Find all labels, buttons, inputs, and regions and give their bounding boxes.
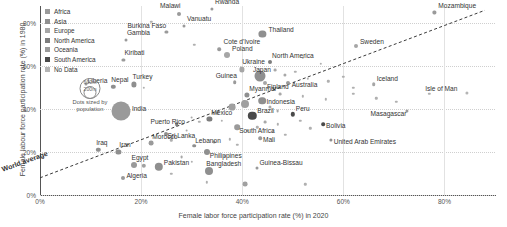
data-point-unlabeled[interactable] bbox=[395, 100, 397, 102]
data-point-label: Ukraine bbox=[242, 59, 265, 66]
legend-item-africa[interactable]: Africa bbox=[45, 8, 96, 15]
data-point[interactable] bbox=[183, 25, 186, 28]
data-point[interactable] bbox=[116, 149, 121, 154]
data-point-unlabeled[interactable] bbox=[284, 73, 287, 76]
data-point[interactable] bbox=[210, 8, 213, 11]
data-point-unlabeled[interactable] bbox=[428, 93, 430, 95]
x-axis-tick-label: 20% bbox=[135, 198, 148, 205]
legend-item-asia[interactable]: Asia bbox=[45, 18, 96, 25]
data-point[interactable] bbox=[207, 116, 212, 121]
data-point[interactable] bbox=[131, 82, 136, 87]
data-point-label: Isle of Man bbox=[425, 86, 457, 93]
data-point-unlabeled[interactable] bbox=[284, 134, 286, 136]
data-point[interactable] bbox=[122, 58, 125, 61]
data-point-label: Kiribati bbox=[124, 50, 144, 57]
legend-swatch bbox=[45, 57, 50, 62]
legend-item-europe[interactable]: Europe bbox=[45, 27, 96, 34]
data-point-unlabeled[interactable] bbox=[299, 120, 301, 122]
data-point-unlabeled[interactable] bbox=[142, 86, 144, 88]
data-point-label: Burkina Faso bbox=[127, 23, 166, 30]
data-point-unlabeled[interactable] bbox=[170, 172, 172, 174]
data-point-unlabeled[interactable] bbox=[279, 93, 282, 96]
data-point-label: Guinea bbox=[216, 73, 237, 80]
data-point-unlabeled[interactable] bbox=[327, 80, 329, 82]
size-legend-caption-line2: population bbox=[61, 106, 119, 113]
legend-label: South America bbox=[54, 56, 96, 63]
legend-item-north-america[interactable]: North America bbox=[45, 37, 96, 44]
data-point[interactable] bbox=[245, 93, 250, 98]
data-point[interactable] bbox=[124, 39, 127, 42]
data-point-label: Masagascar bbox=[371, 111, 407, 118]
data-point[interactable] bbox=[177, 12, 181, 16]
legend-item-oceania[interactable]: Oceania bbox=[45, 46, 96, 53]
size-legend-caption-line1: Dots sized by bbox=[61, 99, 119, 106]
data-point[interactable] bbox=[155, 163, 163, 171]
data-point[interactable] bbox=[224, 52, 230, 58]
data-point-label: Iceland bbox=[377, 76, 398, 83]
x-axis-tick-label: 80% bbox=[438, 198, 451, 205]
legend-item-south-america[interactable]: South America bbox=[45, 56, 96, 63]
data-point-label: Morocco bbox=[152, 134, 177, 141]
data-point[interactable] bbox=[131, 162, 137, 168]
data-point-unlabeled[interactable] bbox=[375, 97, 377, 99]
data-point-unlabeled[interactable] bbox=[304, 183, 306, 185]
data-point[interactable] bbox=[259, 97, 267, 105]
data-point-label: Sweden bbox=[360, 39, 384, 46]
data-point[interactable] bbox=[218, 47, 222, 51]
data-point-unlabeled[interactable] bbox=[264, 121, 267, 124]
data-point[interactable] bbox=[258, 136, 262, 140]
data-point-unlabeled[interactable] bbox=[276, 110, 279, 113]
legend-label: No Data bbox=[54, 66, 77, 73]
data-point-unlabeled[interactable] bbox=[276, 123, 278, 125]
data-point-unlabeled[interactable] bbox=[198, 121, 200, 123]
data-point[interactable] bbox=[433, 11, 436, 14]
legend-item-no-data[interactable]: No Data bbox=[45, 66, 96, 73]
data-point-unlabeled[interactable] bbox=[190, 161, 192, 163]
data-point[interactable] bbox=[291, 112, 295, 116]
legend-label: North America bbox=[54, 37, 95, 44]
data-point-label: Iran bbox=[119, 142, 130, 149]
data-point-unlabeled[interactable] bbox=[352, 93, 354, 95]
data-point[interactable] bbox=[240, 67, 245, 72]
legend-label: Asia bbox=[54, 18, 66, 25]
data-point-unlabeled[interactable] bbox=[324, 98, 326, 100]
data-point-unlabeled[interactable] bbox=[241, 100, 249, 108]
data-point-unlabeled[interactable] bbox=[221, 120, 223, 122]
data-point-unlabeled[interactable] bbox=[206, 181, 208, 183]
data-point-label: Algeria bbox=[126, 173, 147, 180]
data-point-label: Philippines bbox=[210, 153, 242, 160]
data-point[interactable] bbox=[256, 167, 259, 170]
data-point-unlabeled[interactable] bbox=[242, 182, 247, 187]
data-point[interactable] bbox=[233, 80, 237, 84]
data-point[interactable] bbox=[466, 91, 469, 94]
data-point-unlabeled[interactable] bbox=[294, 70, 296, 72]
data-point-unlabeled[interactable] bbox=[302, 95, 304, 97]
data-point[interactable] bbox=[192, 144, 196, 148]
data-point[interactable] bbox=[165, 30, 168, 33]
y-axis-tick-label: 60% bbox=[23, 63, 36, 70]
data-point[interactable] bbox=[372, 83, 376, 87]
data-point-unlabeled[interactable] bbox=[274, 69, 277, 72]
data-point-label: Indonesia bbox=[266, 99, 295, 106]
data-point-unlabeled[interactable] bbox=[307, 78, 309, 80]
data-point-unlabeled[interactable] bbox=[319, 63, 321, 65]
data-point[interactable] bbox=[321, 122, 325, 126]
data-point[interactable] bbox=[329, 139, 332, 142]
data-point[interactable] bbox=[354, 44, 358, 48]
gridline-horizontal bbox=[40, 23, 495, 24]
data-point-unlabeled[interactable] bbox=[352, 86, 354, 88]
data-point-unlabeled[interactable] bbox=[193, 43, 195, 45]
data-point[interactable] bbox=[268, 60, 272, 64]
data-point[interactable] bbox=[121, 176, 125, 180]
legend-swatch bbox=[45, 67, 50, 72]
data-point-unlabeled[interactable] bbox=[309, 127, 311, 129]
data-point-unlabeled[interactable] bbox=[190, 116, 193, 119]
data-point-unlabeled[interactable] bbox=[141, 164, 145, 168]
data-point-unlabeled[interactable] bbox=[236, 143, 238, 145]
data-point[interactable] bbox=[205, 167, 213, 175]
data-point[interactable] bbox=[259, 30, 266, 37]
data-point[interactable] bbox=[149, 141, 154, 146]
data-point-label: Thailand bbox=[268, 27, 293, 34]
data-point[interactable] bbox=[248, 111, 256, 119]
data-point-unlabeled[interactable] bbox=[228, 138, 230, 140]
